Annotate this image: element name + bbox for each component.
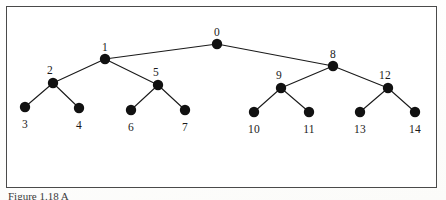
- tree-node-12: [383, 83, 393, 93]
- tree-node-label-13: 13: [354, 123, 366, 135]
- tree-edge-5-6: [131, 85, 158, 110]
- figure-caption: Figure 1.18 A: [8, 191, 308, 200]
- tree-node-8: [328, 61, 338, 71]
- tree-node-14: [410, 107, 420, 117]
- tree-edge-2-3: [25, 83, 53, 107]
- tree-edge-2-4: [53, 83, 79, 108]
- tree-node-label-9: 9: [276, 69, 282, 81]
- tree-node-label-4: 4: [76, 119, 82, 131]
- tree-node-label-3: 3: [22, 118, 28, 130]
- tree-node-10: [249, 107, 259, 117]
- tree-node-label-2: 2: [47, 64, 53, 76]
- tree-edge-1-5: [105, 59, 158, 85]
- tree-node-0: [212, 39, 222, 49]
- tree-node-6: [126, 105, 136, 115]
- figure-page: 01825912346710111314 Figure 1.18 A: [0, 0, 446, 200]
- tree-node-label-6: 6: [128, 121, 134, 133]
- tree-node-2: [48, 78, 58, 88]
- tree-node-label-14: 14: [409, 123, 421, 135]
- tree-node-label-10: 10: [248, 123, 260, 135]
- tree-edge-0-8: [217, 44, 333, 66]
- tree-node-3: [20, 102, 30, 112]
- tree-edge-8-9: [281, 66, 333, 88]
- tree-node-13: [355, 107, 365, 117]
- figure-caption-text: Figure 1.18 A: [8, 191, 308, 200]
- tree-node-label-11: 11: [303, 123, 314, 135]
- tree-node-label-12: 12: [379, 69, 391, 81]
- tree-edge-5-7: [158, 85, 185, 110]
- tree-node-label-7: 7: [182, 121, 188, 133]
- tree-node-label-0: 0: [214, 26, 220, 38]
- tree-node-9: [276, 83, 286, 93]
- tree-node-11: [304, 107, 314, 117]
- tree-edge-1-2: [53, 59, 105, 83]
- node-layer: [20, 39, 420, 117]
- tree-node-1: [100, 54, 110, 64]
- tree-node-7: [180, 105, 190, 115]
- tree-edge-9-10: [254, 88, 281, 112]
- tree-edge-12-14: [388, 88, 415, 112]
- tree-node-5: [153, 80, 163, 90]
- tree-node-label-1: 1: [102, 41, 108, 53]
- tree-diagram: [6, 6, 437, 188]
- tree-edge-0-1: [105, 44, 217, 59]
- tree-node-4: [74, 103, 84, 113]
- edge-layer: [25, 44, 415, 112]
- tree-edge-12-13: [360, 88, 388, 112]
- tree-node-label-5: 5: [153, 66, 159, 78]
- tree-node-label-8: 8: [330, 48, 336, 60]
- tree-edge-9-11: [281, 88, 309, 112]
